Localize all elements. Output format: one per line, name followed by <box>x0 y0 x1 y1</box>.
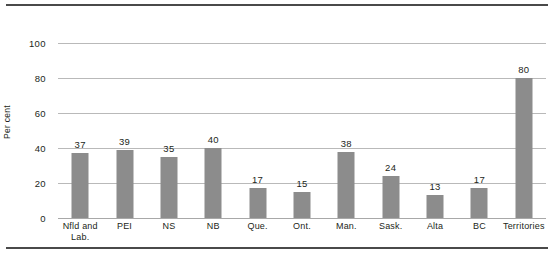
bar-group[interactable]: 38 <box>324 26 368 218</box>
top-rule <box>6 4 548 6</box>
bar-group[interactable]: 37 <box>58 26 102 218</box>
bar-value-label: 37 <box>75 139 86 150</box>
plot-area: 3739354017153824131780 <box>58 26 546 218</box>
x-tick-label-line: Lab. <box>50 232 110 243</box>
x-tick-label: Territories <box>494 221 554 232</box>
bar-group[interactable]: 35 <box>147 26 191 218</box>
bar-value-label: 17 <box>474 174 485 185</box>
bar[interactable] <box>427 195 444 218</box>
bar-group[interactable]: 39 <box>102 26 146 218</box>
bar-value-label: 24 <box>385 162 396 173</box>
bar-group[interactable]: 15 <box>280 26 324 218</box>
y-axis-title: Per cent <box>2 26 16 218</box>
bar[interactable] <box>515 78 532 218</box>
bar[interactable] <box>471 188 488 218</box>
bar-chart-figure: Per cent 3739354017153824131780 02040608… <box>0 0 554 258</box>
bar-group[interactable]: 80 <box>502 26 546 218</box>
bar[interactable] <box>249 188 266 218</box>
bar-value-label: 39 <box>119 136 130 147</box>
bar[interactable] <box>205 148 222 218</box>
x-axis-tick-labels: Nfld andLab.PEINSNBQue.Ont.Man.Sask.Alta… <box>58 221 546 251</box>
bar[interactable] <box>382 176 399 218</box>
bar-value-label: 15 <box>296 178 307 189</box>
bar[interactable] <box>160 157 177 218</box>
x-tick-label-line: Territories <box>494 221 554 232</box>
bar-value-label: 35 <box>163 143 174 154</box>
bar-group[interactable]: 17 <box>457 26 501 218</box>
bar-group[interactable]: 40 <box>191 26 235 218</box>
bar[interactable] <box>338 152 355 218</box>
bar-value-label: 13 <box>429 181 440 192</box>
bar[interactable] <box>116 150 133 218</box>
bar-value-label: 40 <box>208 134 219 145</box>
bar[interactable] <box>72 153 89 218</box>
bar-value-label: 80 <box>518 64 529 75</box>
bar-group[interactable]: 17 <box>235 26 279 218</box>
bar-group[interactable]: 13 <box>413 26 457 218</box>
bar-group[interactable]: 24 <box>369 26 413 218</box>
bar[interactable] <box>293 192 310 218</box>
gridline-0 <box>58 218 546 219</box>
bar-value-label: 17 <box>252 174 263 185</box>
bar-value-label: 38 <box>341 138 352 149</box>
